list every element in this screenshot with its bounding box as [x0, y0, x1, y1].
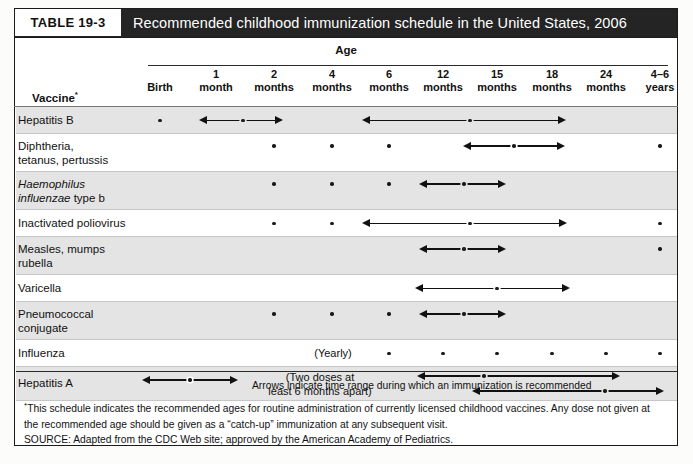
age-header-rule — [148, 65, 668, 66]
table-row: Influenza(Yearly) — [16, 340, 677, 367]
column-header-m4: 4months — [303, 68, 361, 93]
column-header-line2: years — [631, 81, 689, 94]
schedule-note: (Yearly) — [314, 347, 352, 361]
table-title: Recommended childhood immunization sched… — [133, 9, 671, 36]
schedule-marks — [16, 237, 677, 275]
range-arrow-m12-to-m18 — [415, 284, 570, 293]
column-header-line1 — [131, 68, 189, 81]
range-arrow-m1-to-m2 — [199, 116, 283, 125]
dose-dot-y4_6 — [658, 222, 661, 225]
arrow-head-right-icon — [275, 116, 283, 124]
column-header-line2: months — [303, 81, 361, 94]
column-header-line1: 12 — [414, 68, 472, 81]
table-row: Hepatitis B — [16, 107, 677, 134]
dose-dot-m2 — [272, 144, 275, 147]
arrow-head-right-icon — [498, 310, 506, 318]
table-row: Varicella — [16, 275, 677, 302]
vaccine-header-text: Vaccine — [32, 92, 75, 104]
column-header-line1: 4 — [303, 68, 361, 81]
dose-dot-m4 — [330, 222, 333, 225]
arrow-head-right-icon — [557, 142, 565, 150]
range-arrow-m6-to-m18 — [362, 219, 567, 228]
arrow-mid-dot — [495, 287, 498, 290]
dose-dot-y4_6 — [658, 352, 661, 355]
legend: Arrows indicate time range during which … — [14, 378, 678, 394]
column-header-line1: 15 — [468, 68, 526, 81]
arrow-shaft — [368, 120, 560, 122]
arrow-head-right-icon — [498, 180, 506, 188]
schedule-rows: Hepatitis BDiphtheria,tetanus, pertussis… — [16, 107, 677, 401]
range-arrow-m12-to-m15 — [419, 310, 506, 319]
arrow-mid-dot — [468, 222, 471, 225]
dose-dot-m6 — [387, 182, 390, 185]
column-header-m15: 15months — [468, 68, 526, 93]
vaccine-column-header: Vaccine* — [32, 90, 78, 104]
arrow-mid-dot — [462, 182, 465, 185]
dose-dot-m6 — [387, 352, 390, 355]
column-header-line2: months — [577, 81, 635, 94]
arrow-head-right-icon — [498, 245, 506, 253]
column-header-m12: 12months — [414, 68, 472, 93]
range-arrow-m6-to-m18 — [362, 116, 566, 125]
column-header-line2: month — [187, 81, 245, 94]
vaccine-header-marker: * — [75, 90, 78, 99]
dose-dot-m12 — [441, 352, 444, 355]
table-row: Pneumococcalconjugate — [16, 302, 677, 340]
dose-dot-m4 — [330, 312, 333, 315]
schedule-marks — [16, 134, 677, 172]
column-header-birth: Birth — [131, 68, 189, 93]
arrow-shaft — [368, 223, 561, 225]
table-figure: TABLE 19-3 Recommended childhood immuniz… — [0, 0, 693, 464]
schedule-marks — [16, 172, 677, 210]
column-header-row: Vaccine* Birth1month2months4months6month… — [14, 68, 678, 104]
range-arrow-m12-to-m15 — [419, 180, 506, 189]
dose-dot-birth — [158, 119, 161, 122]
column-header-line1: 4–6 — [631, 68, 689, 81]
dose-dot-y4_6 — [658, 247, 661, 250]
column-header-line2: months — [523, 81, 581, 94]
column-header-m24: 24months — [577, 68, 635, 93]
dose-dot-m18 — [550, 352, 553, 355]
arrow-head-right-icon — [559, 219, 567, 227]
table-row: Measles, mumpsrubella — [16, 237, 677, 275]
dose-dot-m2 — [272, 312, 275, 315]
source-note: SOURCE: Adapted from the CDC Web site; a… — [24, 432, 664, 447]
legend-text: Arrows indicate time range during which … — [252, 378, 591, 393]
dose-dot-y4_6 — [658, 144, 661, 147]
schedule-marks: (Yearly) — [16, 340, 677, 367]
footnote-text: This schedule indicates the recommended … — [24, 403, 650, 430]
dose-dot-m6 — [387, 144, 390, 147]
dose-dot-m2 — [272, 222, 275, 225]
column-header-line2: months — [360, 81, 418, 94]
column-header-m18: 18months — [523, 68, 581, 93]
schedule-marks — [16, 210, 677, 237]
column-header-line1: 2 — [245, 68, 303, 81]
dose-dot-m15 — [495, 352, 498, 355]
column-header-line1: 18 — [523, 68, 581, 81]
arrow-shaft — [423, 375, 614, 377]
arrow-head-right-icon — [558, 116, 566, 124]
arrow-mid-dot — [241, 119, 244, 122]
arrow-mid-dot — [512, 144, 515, 147]
arrow-shaft — [421, 288, 564, 290]
schedule-marks — [16, 107, 677, 134]
arrow-mid-dot — [462, 247, 465, 250]
dose-dot-m4 — [330, 144, 333, 147]
footnote: *This schedule indicates the recommended… — [24, 398, 664, 432]
arrow-head-right-icon — [562, 284, 570, 292]
footer-separator — [16, 371, 677, 372]
column-header-line2: Birth — [131, 81, 189, 94]
legend-arrow-icon — [142, 376, 238, 385]
column-header-line1: 24 — [577, 68, 635, 81]
column-header-line2: months — [245, 81, 303, 94]
table-row: Inactivated poliovirus — [16, 210, 677, 237]
age-group-header: Age — [14, 44, 678, 56]
column-header-line1: 6 — [360, 68, 418, 81]
range-arrow-m12-to-m18 — [463, 142, 565, 151]
column-header-y4_6: 4–6years — [631, 68, 689, 93]
schedule-marks — [16, 275, 677, 302]
schedule-marks — [16, 302, 677, 340]
table-row: Diphtheria,tetanus, pertussis — [16, 134, 677, 172]
column-header-m1: 1month — [187, 68, 245, 93]
dose-dot-m4 — [330, 182, 333, 185]
